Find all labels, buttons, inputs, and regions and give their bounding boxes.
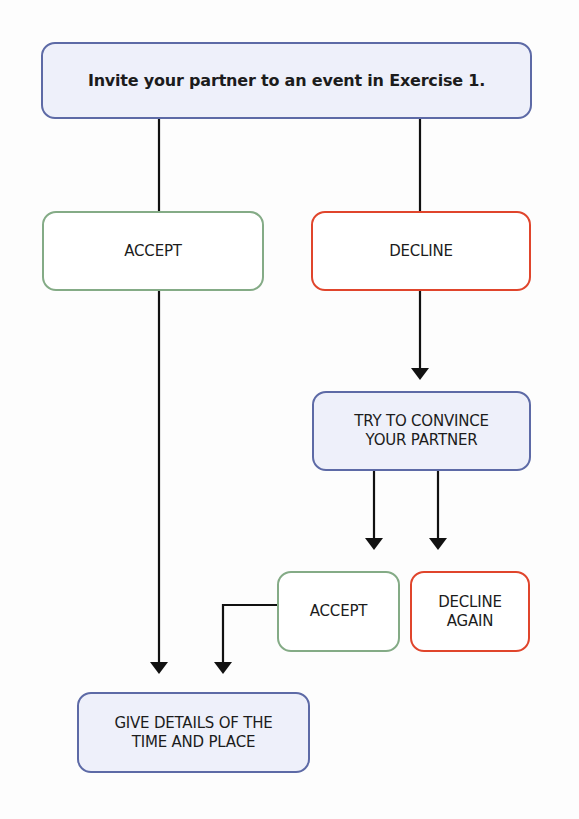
arrow-head [429, 538, 447, 550]
give-details-text: GIVE DETAILS OF THE TIME AND PLACE [97, 714, 290, 752]
arrow-head [365, 538, 383, 550]
convince-text: TRY TO CONVINCE YOUR PARTNER [344, 412, 499, 450]
accept-again-box: ACCEPT [277, 571, 400, 652]
title-box: Invite your partner to an event in Exerc… [41, 42, 532, 119]
title-text: Invite your partner to an event in Exerc… [88, 71, 485, 90]
decline-again-box: DECLINE AGAIN [410, 571, 530, 652]
decline-box: DECLINE [311, 211, 531, 291]
arrow-head [411, 368, 429, 380]
decline-text: DECLINE [389, 242, 453, 261]
convince-box: TRY TO CONVINCE YOUR PARTNER [312, 391, 531, 471]
accept-text: ACCEPT [124, 242, 181, 261]
accept-again-text: ACCEPT [310, 602, 367, 621]
accept-box: ACCEPT [42, 211, 264, 291]
arrow-head [150, 662, 168, 674]
decline-again-text: DECLINE AGAIN [428, 593, 512, 631]
give-details-box: GIVE DETAILS OF THE TIME AND PLACE [77, 692, 310, 773]
arrow-head [214, 662, 232, 674]
